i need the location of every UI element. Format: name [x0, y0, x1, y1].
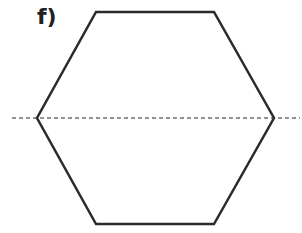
hexagon-diagram	[0, 0, 302, 233]
